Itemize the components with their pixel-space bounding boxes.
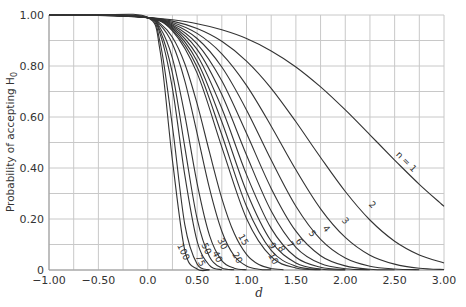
y-axis-label: Probability of accepting H0	[4, 72, 19, 212]
y-tick-label: 0.80	[20, 60, 45, 73]
y-axis-label-text: Probability of accepting H	[4, 77, 16, 212]
y-tick-label: 0.20	[20, 213, 45, 226]
curve-label: n = 1	[394, 149, 419, 174]
curve-label: 75	[194, 253, 208, 268]
curve-label: 5	[307, 228, 318, 238]
y-tick-label: 0	[37, 264, 44, 277]
curve-label: 4	[321, 223, 333, 234]
x-tick-label: −0.50	[82, 274, 116, 287]
x-tick-label: 0.50	[185, 274, 210, 287]
x-tick-label: 2.00	[333, 274, 358, 287]
y-axis-label-subscript: 0	[10, 72, 19, 77]
y-axis-ticks: 00.200.400.600.801.00	[20, 9, 45, 277]
y-tick-label: 1.00	[20, 9, 45, 22]
x-tick-label: 1.50	[284, 274, 309, 287]
y-tick-label: 0.40	[20, 162, 45, 175]
grid-lines	[49, 15, 444, 270]
x-tick-label: 2.50	[382, 274, 407, 287]
curve-label: 30	[216, 236, 230, 251]
x-axis-label: d	[255, 286, 263, 300]
x-tick-label: 0.0	[139, 274, 157, 287]
curve-label: 2	[367, 199, 378, 210]
x-axis-ticks: −1.00−0.500.00.501.001.502.002.503.00	[32, 274, 456, 287]
oc-curve-chart: n = 12345678910152030405075100 −1.00−0.5…	[0, 0, 466, 307]
x-tick-label: 3.00	[432, 274, 457, 287]
y-tick-label: 0.60	[20, 111, 45, 124]
